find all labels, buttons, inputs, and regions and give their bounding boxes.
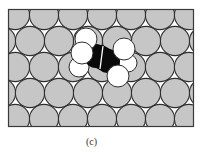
surface-diagram <box>0 0 200 156</box>
surface-atom <box>44 78 73 107</box>
surface-adsorption-figure: (c) <box>0 0 200 156</box>
surface-atom <box>174 0 200 29</box>
surface-atom <box>116 0 145 29</box>
surface-atom <box>160 78 189 107</box>
hydrogen-atom <box>71 42 93 64</box>
surface-atom <box>29 104 58 133</box>
metal-surface <box>0 0 200 133</box>
surface-atom <box>15 78 44 107</box>
surface-atom <box>87 0 116 29</box>
surface-atom <box>0 104 29 133</box>
surface-atom <box>0 0 29 29</box>
surface-atom <box>29 0 58 29</box>
surface-atom <box>145 52 174 81</box>
surface-atom <box>87 104 116 133</box>
figure-caption: (c) <box>0 136 183 147</box>
surface-atom <box>58 104 87 133</box>
surface-atom <box>29 52 58 81</box>
surface-atom <box>174 52 200 81</box>
surface-atom <box>145 104 174 133</box>
hydrogen-atom <box>113 38 135 60</box>
surface-atom <box>15 26 44 55</box>
surface-atom <box>160 26 189 55</box>
surface-atom <box>73 78 102 107</box>
surface-atom <box>145 0 174 29</box>
surface-atom <box>131 78 160 107</box>
surface-atom <box>0 52 29 81</box>
surface-atom <box>44 26 73 55</box>
surface-atom <box>116 104 145 133</box>
surface-atom <box>131 26 160 55</box>
surface-atom <box>58 0 87 29</box>
hydrogen-atom <box>107 65 129 87</box>
surface-atom <box>174 104 200 133</box>
